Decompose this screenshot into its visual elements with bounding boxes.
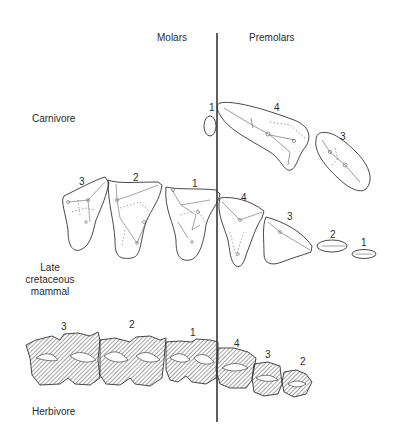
herbivore-teeth: [26, 332, 312, 397]
tooth-number: 2: [330, 230, 336, 240]
tooth-number: 3: [79, 177, 85, 187]
tooth-number: 4: [234, 339, 240, 349]
teeth-diagram: [0, 0, 396, 445]
cretaceous-molar-2: [108, 180, 162, 258]
cretaceous-teeth: [63, 177, 376, 267]
cretaceous-premolar-4: [219, 198, 264, 267]
row-label-line: mammal: [24, 286, 76, 298]
cretaceous-molar-1: [166, 187, 220, 260]
carnivore-teeth: [204, 102, 370, 190]
tooth-number: 1: [192, 179, 198, 189]
tooth-number: 1: [190, 328, 196, 338]
tooth-number: 3: [61, 322, 67, 332]
molars-header: Molars: [157, 32, 187, 44]
tooth-number: 2: [133, 173, 139, 183]
row-label-carnivore: Carnivore: [32, 113, 75, 125]
tooth-number: 2: [300, 357, 306, 367]
tooth-number: 4: [274, 103, 280, 113]
tooth-number: 3: [265, 350, 271, 360]
row-label-herbivore: Herbivore: [32, 406, 75, 418]
row-label-line: Late: [24, 262, 76, 274]
tooth-number: 2: [129, 320, 135, 330]
premolars-header: Premolars: [249, 32, 295, 44]
carnivore-molar-1: [204, 116, 216, 136]
row-label-line: cretaceous: [24, 274, 76, 286]
row-label-cretaceous: Late cretaceous mammal: [24, 262, 76, 298]
cretaceous-molar-3: [63, 177, 109, 250]
tooth-number: 1: [209, 103, 215, 113]
tooth-number: 4: [241, 193, 247, 203]
tooth-number: 3: [287, 212, 293, 222]
tooth-number: 3: [340, 132, 346, 142]
tooth-number: 1: [361, 238, 367, 248]
